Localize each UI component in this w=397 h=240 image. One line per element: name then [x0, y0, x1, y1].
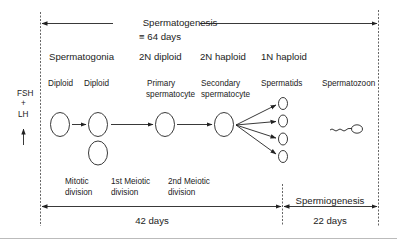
cells — [51, 98, 363, 166]
spermatogonium-cell-icon — [51, 113, 70, 137]
label-spermatids: Spermatids — [261, 79, 302, 88]
division-mitotic-2: division — [65, 188, 92, 197]
hormone-fsh: FSH — [17, 89, 33, 98]
spermatid-arrow-3 — [236, 125, 276, 138]
diploid-cell-bottom-icon — [89, 141, 108, 165]
phase-22-days: 22 days — [313, 215, 347, 226]
division-meiotic1-1: 1st Meiotic — [111, 177, 150, 186]
label-diploid-b: Diploid — [84, 79, 109, 88]
division-mitotic-1: Mitotic — [65, 177, 89, 186]
primary-spermatocyte-icon — [156, 113, 175, 137]
diploid-cell-top-icon — [89, 113, 108, 137]
label-primary-1: Primary — [147, 79, 175, 88]
division-meiotic1-2: division — [111, 188, 138, 197]
spermatid-arrow-4 — [236, 125, 276, 154]
spermatogenesis-title: Spermatogenesis — [143, 17, 218, 28]
label-secondary-1: Secondary — [201, 79, 240, 88]
spermatid-3-icon — [279, 133, 288, 145]
label-spermatozoon: Spermatozoon — [322, 79, 375, 88]
division-meiotic2-2: division — [168, 188, 195, 197]
secondary-spermatocyte-icon — [215, 113, 234, 137]
label-diploid-a: Diploid — [48, 79, 73, 88]
spermatogenesis-duration: ≡ 64 days — [139, 31, 181, 42]
hormone-plus: + — [21, 99, 26, 108]
phase-spermiogenesis: Spermiogenesis — [296, 195, 365, 206]
header-spermatogonia: Spermatogonia — [49, 51, 114, 62]
header-2n-diploid: 2N diploid — [139, 51, 182, 62]
spermatozoon-head-icon — [352, 125, 363, 133]
label-primary-2: spermatocyte — [146, 90, 195, 99]
hormone-lh: LH — [18, 110, 28, 119]
header-1n-haploid: 1N haploid — [261, 51, 307, 62]
spermatid-4-icon — [279, 151, 288, 163]
spermatozoon-tail-icon — [330, 128, 352, 131]
division-meiotic2-1: 2nd Meiotic — [168, 177, 210, 186]
label-secondary-2: spermatocyte — [201, 90, 250, 99]
spermatid-2-icon — [279, 115, 288, 127]
spermatid-1-icon — [279, 98, 288, 110]
header-2n-haploid: 2N haploid — [200, 51, 246, 62]
phase-42-days: 42 days — [135, 215, 169, 226]
